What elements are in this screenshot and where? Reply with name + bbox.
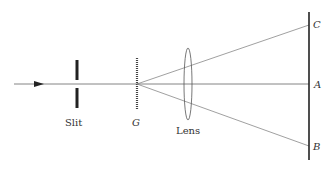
beam-arrow-icon: [34, 81, 44, 87]
ray-to-c: [137, 25, 309, 84]
point-b-label: B: [313, 142, 320, 152]
grating-label: G: [132, 118, 140, 128]
slit-label: Slit: [65, 118, 82, 128]
diffraction-grating-diagram: Slit G Lens C A B: [0, 0, 333, 169]
point-c-label: C: [313, 20, 321, 30]
point-a-label: A: [314, 80, 321, 90]
lens-label: Lens: [176, 126, 200, 136]
ray-to-b: [137, 84, 309, 146]
optics-drawing: [0, 0, 333, 169]
